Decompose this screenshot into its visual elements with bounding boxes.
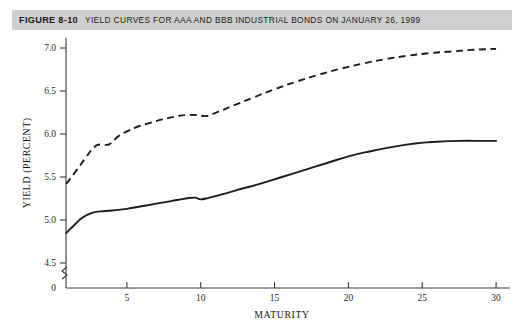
y-tick-label: 7.0 [44, 43, 56, 53]
y-tick-label: 4.5 [44, 258, 56, 268]
y-axis-origin-label: 0 [51, 283, 56, 293]
y-axis-ticks: 4.55.05.56.06.57.0 [44, 43, 66, 268]
y-tick-label: 6.5 [44, 86, 56, 96]
series-line-aaa [66, 141, 496, 233]
x-tick-label: 30 [491, 293, 501, 303]
x-axis-title: MATURITY [254, 309, 309, 320]
series-line-bbb [66, 49, 496, 184]
x-axis-ticks: 51015202530 [124, 282, 501, 303]
y-tick-label: 6.0 [44, 129, 56, 139]
y-axis-title: YIELD (PERCENT) [21, 117, 33, 208]
x-tick-label: 10 [196, 293, 206, 303]
x-tick-label: 5 [124, 293, 129, 303]
x-tick-label: 20 [344, 293, 354, 303]
yield-curve-plot: 4.55.05.56.06.57.0 51015202530 0 MATURIT… [0, 0, 528, 336]
y-tick-label: 5.5 [44, 172, 56, 182]
y-tick-label: 5.0 [44, 215, 56, 225]
figure-container: FIGURE 8-10 Yield Curves for AAA and BBB… [0, 0, 528, 336]
x-tick-label: 25 [418, 293, 428, 303]
x-tick-label: 15 [270, 293, 280, 303]
